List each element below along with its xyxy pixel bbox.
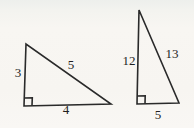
side-label-bottom-leg: 5 [155,107,162,122]
side-label-left-leg: 3 [15,65,22,80]
right-angle-icon [24,98,32,106]
triangles-diagram: 3 5 4 12 13 5 [0,0,194,128]
side-label-hypotenuse: 5 [68,57,75,72]
side-label-left-leg: 12 [123,53,136,68]
triangle-5-12-13: 12 13 5 [123,10,180,122]
geometry-figure: 3 5 4 12 13 5 [0,0,194,128]
side-label-bottom-leg: 4 [63,102,70,117]
triangle-3-4-5: 3 5 4 [15,44,111,117]
triangle-3-4-5-outline [24,44,111,106]
side-label-hypotenuse: 13 [166,46,179,61]
right-angle-icon [137,96,145,104]
